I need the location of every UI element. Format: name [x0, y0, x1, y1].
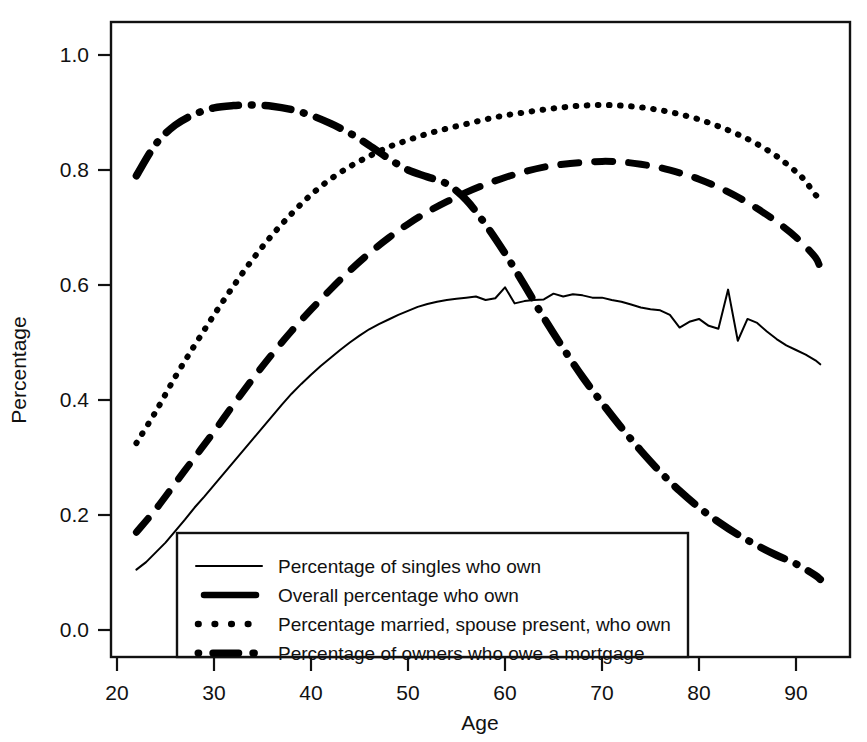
x-tick-label: 40 — [299, 681, 322, 704]
y-axis-title: Percentage — [7, 316, 30, 423]
x-tick-label: 60 — [493, 681, 516, 704]
legend-label-4: Percentage of owners who owe a mortgage — [278, 643, 645, 664]
chart-svg: 0.00.20.40.60.81.0 2030405060708090 Perc… — [0, 0, 867, 742]
y-axis-ticks: 0.00.20.40.60.81.0 — [60, 43, 111, 641]
x-axis-title: Age — [461, 711, 498, 734]
series-layer — [136, 105, 820, 579]
y-tick-label: 0.4 — [60, 388, 90, 411]
y-tick-label: 1.0 — [60, 43, 89, 66]
x-tick-label: 30 — [202, 681, 225, 704]
chart-legend: Percentage of singles who ownOverall per… — [177, 533, 688, 664]
legend-label-3: Percentage married, spouse present, who … — [278, 614, 671, 635]
series-line-2 — [136, 161, 820, 532]
chart-figure: 0.00.20.40.60.81.0 2030405060708090 Perc… — [0, 0, 867, 742]
x-tick-label: 20 — [105, 681, 128, 704]
y-tick-label: 0.8 — [60, 158, 89, 181]
x-tick-label: 80 — [687, 681, 710, 704]
legend-label-2: Overall percentage who own — [278, 585, 519, 606]
x-tick-label: 70 — [590, 681, 613, 704]
x-tick-label: 50 — [396, 681, 419, 704]
series-line-1 — [136, 287, 820, 569]
x-tick-label: 90 — [784, 681, 807, 704]
legend-label-1: Percentage of singles who own — [278, 556, 541, 577]
series-line-4 — [136, 105, 820, 579]
y-tick-label: 0.6 — [60, 273, 89, 296]
y-tick-label: 0.0 — [60, 618, 89, 641]
y-tick-label: 0.2 — [60, 503, 89, 526]
x-axis-ticks: 2030405060708090 — [105, 657, 807, 704]
